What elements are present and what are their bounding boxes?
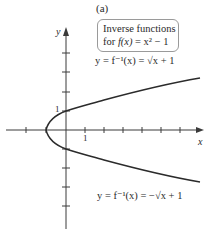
lower-curve bbox=[46, 130, 200, 182]
graph-canvas bbox=[0, 0, 210, 234]
y-axis bbox=[62, 27, 70, 229]
x-axis bbox=[6, 127, 204, 133]
y-axis-arrow-icon bbox=[63, 27, 69, 36]
x-axis-arrow-icon bbox=[196, 127, 204, 133]
upper-curve bbox=[46, 78, 200, 130]
